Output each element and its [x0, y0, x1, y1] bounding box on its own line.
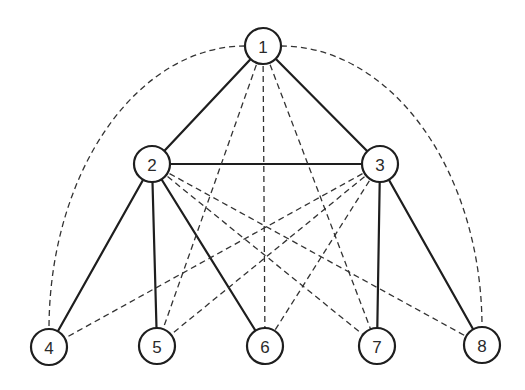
- edge-2-4: [49, 164, 152, 347]
- node-1: 1: [245, 28, 281, 64]
- node-2: 2: [134, 146, 170, 182]
- edge-3-6: [265, 164, 380, 346]
- edge-3-8: [380, 164, 482, 345]
- edges-layer: [49, 46, 482, 347]
- graph-diagram: 12345678: [0, 0, 525, 390]
- node-label: 2: [147, 156, 156, 175]
- node-8: 8: [464, 327, 500, 363]
- edge-1-6: [263, 46, 265, 346]
- node-label: 8: [477, 337, 486, 356]
- edge-1-8: [281, 46, 482, 327]
- node-3: 3: [362, 146, 398, 182]
- edge-1-4: [49, 46, 245, 329]
- edge-2-5: [152, 164, 157, 346]
- nodes-layer: 12345678: [31, 28, 500, 365]
- edge-2-8: [152, 164, 482, 345]
- edge-1-2: [152, 46, 263, 164]
- node-label: 5: [152, 338, 161, 357]
- node-7: 7: [359, 328, 395, 364]
- node-label: 7: [372, 338, 381, 357]
- edge-2-6: [152, 164, 265, 346]
- node-label: 1: [258, 38, 267, 57]
- node-label: 4: [44, 339, 53, 358]
- edge-3-7: [377, 164, 380, 346]
- node-6: 6: [247, 328, 283, 364]
- edge-3-4: [49, 164, 380, 347]
- edge-1-3: [263, 46, 380, 164]
- node-label: 6: [260, 338, 269, 357]
- edge-3-5: [157, 164, 380, 346]
- node-label: 3: [375, 156, 384, 175]
- edge-1-7: [263, 46, 377, 346]
- node-5: 5: [139, 328, 175, 364]
- node-4: 4: [31, 329, 67, 365]
